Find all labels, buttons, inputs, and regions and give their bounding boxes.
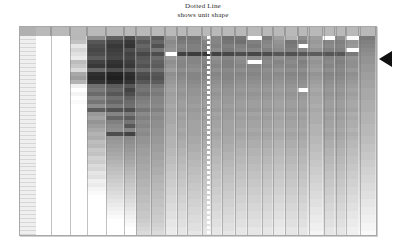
- figure-title: Dotted Line shows unit shape: [0, 2, 406, 19]
- heatmap-cell[interactable]: [165, 231, 177, 235]
- column-header-row: [20, 27, 376, 36]
- heatmap-cell[interactable]: [124, 231, 136, 235]
- column-header-cell[interactable]: [177, 27, 187, 36]
- heatmap-cell[interactable]: [298, 231, 308, 235]
- heatmap-cell[interactable]: [323, 231, 335, 235]
- heatmap-cell[interactable]: [285, 231, 298, 235]
- heatmap-cell[interactable]: [106, 231, 124, 235]
- column-header-cell[interactable]: [211, 27, 221, 36]
- column-header-cell[interactable]: [285, 27, 298, 36]
- row-label[interactable]: [20, 231, 36, 235]
- column-header-cell[interactable]: [124, 27, 136, 36]
- heatmap-body: [20, 36, 376, 235]
- heatmap-cell[interactable]: [359, 231, 375, 235]
- heatmap-cell[interactable]: [346, 231, 359, 235]
- column-header-cell[interactable]: [187, 27, 202, 36]
- heatmap-cell[interactable]: [177, 231, 187, 235]
- heatmap-cell[interactable]: [235, 231, 247, 235]
- column-header-cell[interactable]: [70, 27, 86, 36]
- column-header-cell[interactable]: [87, 27, 106, 36]
- heatmap-plot-area[interactable]: [19, 26, 377, 236]
- heatmap-cell[interactable]: [262, 231, 272, 235]
- selected-row-pointer-icon[interactable]: [379, 51, 392, 67]
- heatmap-cell[interactable]: [136, 231, 151, 235]
- heatmap-cell[interactable]: [222, 231, 235, 235]
- heatmap-row-cells: [36, 231, 376, 235]
- heatmap-cell[interactable]: [151, 231, 164, 235]
- column-header-cell[interactable]: [262, 27, 272, 36]
- heatmap-figure: Dotted Line shows unit shape: [0, 0, 406, 252]
- column-header-cell[interactable]: [323, 27, 335, 36]
- column-header-cell[interactable]: [335, 27, 345, 36]
- heatmap-cell[interactable]: [202, 231, 211, 235]
- heatmap-cell[interactable]: [87, 231, 106, 235]
- column-header-cell[interactable]: [151, 27, 164, 36]
- heatmap-row[interactable]: [20, 231, 376, 235]
- heatmap-cell[interactable]: [308, 231, 323, 235]
- heatmap-cell[interactable]: [187, 231, 202, 235]
- column-header-cell[interactable]: [298, 27, 308, 36]
- heatmap-cell[interactable]: [335, 231, 345, 235]
- heatmap-cell[interactable]: [247, 231, 262, 235]
- column-header-cell[interactable]: [202, 27, 211, 36]
- header-corner-cell: [20, 27, 36, 36]
- heatmap-cell[interactable]: [211, 231, 221, 235]
- heatmap-grid-wrapper: [20, 27, 376, 235]
- figure-title-line2: shows unit shape: [0, 11, 406, 20]
- column-header-cell[interactable]: [235, 27, 247, 36]
- heatmap-cell[interactable]: [273, 231, 285, 235]
- column-header-cell[interactable]: [51, 27, 70, 36]
- column-header-cell[interactable]: [346, 27, 359, 36]
- column-header-cell[interactable]: [165, 27, 177, 36]
- column-header-cell[interactable]: [359, 27, 375, 36]
- column-header-cell[interactable]: [106, 27, 124, 36]
- figure-title-line1: Dotted Line: [185, 2, 221, 10]
- heatmap-cell[interactable]: [70, 231, 86, 235]
- column-header-cell[interactable]: [273, 27, 285, 36]
- column-header-cell[interactable]: [222, 27, 235, 36]
- column-header-cell[interactable]: [136, 27, 151, 36]
- column-header-cell[interactable]: [247, 27, 262, 36]
- heatmap-cell[interactable]: [36, 231, 51, 235]
- column-header-cell[interactable]: [36, 27, 51, 36]
- column-header-cell[interactable]: [308, 27, 323, 36]
- heatmap-cell[interactable]: [51, 231, 70, 235]
